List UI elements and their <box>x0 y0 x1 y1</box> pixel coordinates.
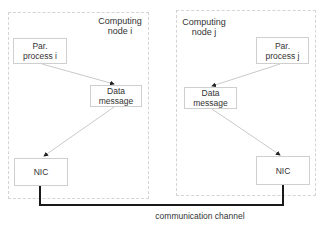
nic-j: NIC <box>256 156 310 185</box>
connector-lines <box>0 0 323 227</box>
nic-i: NIC <box>14 158 68 186</box>
parallel-process-j: Par. process j <box>256 37 309 64</box>
communication-channel-label: communication channel <box>140 211 260 221</box>
data-message-i: Data message <box>90 85 142 107</box>
data-message-j: Data message <box>184 87 237 109</box>
parallel-process-i: Par. process i <box>13 38 67 64</box>
